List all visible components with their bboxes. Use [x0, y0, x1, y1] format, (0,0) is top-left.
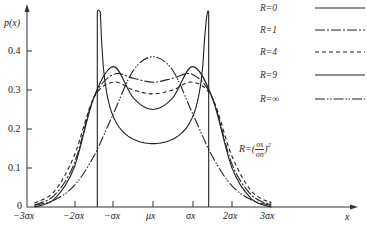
legend-lines	[315, 8, 365, 99]
curve-r4	[35, 82, 272, 203]
formula-numerator: σs	[255, 140, 264, 150]
x-tick-pos3: 3σx	[260, 211, 274, 221]
formula-denominator: σn	[255, 150, 264, 159]
y-axis-label: p(x)	[4, 18, 20, 28]
formula-exponent: 2	[268, 141, 272, 149]
x-tick-mu: μx	[146, 211, 155, 221]
y-axis	[25, 4, 33, 207]
x-tick-neg2: −2σx	[63, 211, 84, 221]
y-tick-0.2: 0.2	[8, 124, 21, 134]
formula-prefix: R=	[239, 143, 252, 154]
curve-rinf	[35, 57, 272, 206]
legend-label: R=0	[260, 3, 277, 13]
legend-label: R=∞	[260, 94, 279, 104]
chart-canvas	[0, 0, 367, 225]
formula-fraction: σsσn	[255, 140, 264, 159]
x-tick-pos1: σx	[186, 211, 195, 221]
snr-formula-annotation: R=(σsσn)2	[239, 140, 271, 159]
legend-label: R=1	[260, 25, 277, 35]
x-tick-neg3: −3σx	[13, 211, 34, 221]
x-tick-neg1: −σx	[104, 211, 120, 221]
x-axis-label: x	[345, 212, 349, 222]
y-tick-0.4: 0.4	[8, 46, 21, 56]
x-tick-pos2: 2σx	[223, 211, 237, 221]
x-axis	[27, 201, 358, 210]
legend-label: R=9	[260, 70, 277, 80]
y-tick-0.3: 0.3	[8, 85, 21, 95]
legend-label: R=4	[260, 47, 277, 57]
curve-r9	[35, 67, 272, 207]
curve-r0	[97, 10, 208, 207]
plot-curves	[35, 10, 272, 207]
y-tick-0.1: 0.1	[8, 163, 21, 173]
curve-r1	[35, 73, 272, 205]
